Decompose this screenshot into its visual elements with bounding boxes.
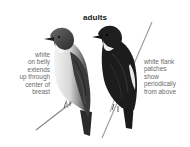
bird-back-view: [92, 26, 137, 129]
bird-front-view: [44, 28, 92, 136]
bird-illustration: [0, 0, 190, 147]
